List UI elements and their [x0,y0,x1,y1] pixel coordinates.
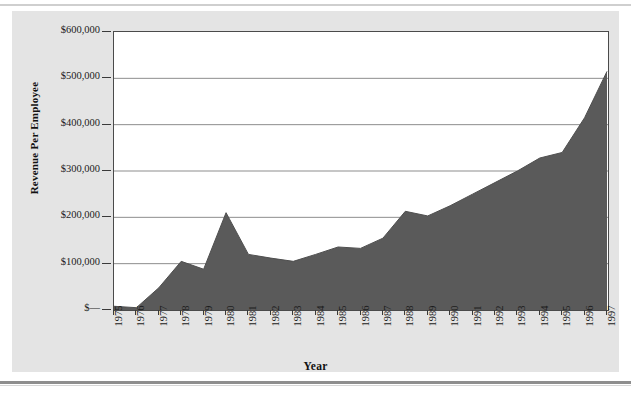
bottom-rule-secondary [0,385,631,386]
x-tick-label: 1991 [472,296,483,336]
x-tick-label: 1985 [337,296,348,336]
x-tick-label: 1987 [382,296,393,336]
x-tick-label: 1976 [135,296,146,336]
x-tick-label: 1983 [292,296,303,336]
x-tick-label: 1994 [539,296,550,336]
chart-figure: Revenue Per Employee $600,000$500,000$40… [0,0,631,396]
x-tick-label: 1996 [584,296,595,336]
x-axis-title: Year [0,360,631,372]
x-tick-label: 1990 [449,296,460,336]
x-tick-label: 1995 [561,296,572,336]
x-axis-tick-labels: 1975197619771978197919801981198219831984… [0,0,631,396]
x-tick-label: 1980 [225,296,236,336]
x-tick-label: 1993 [516,296,527,336]
x-tick-label: 1989 [427,296,438,336]
bottom-rule [0,381,631,384]
x-tick-label: 1977 [158,296,169,336]
x-tick-label: 1997 [606,296,617,336]
x-tick-label: 1984 [315,296,326,336]
x-tick-label: 1982 [270,296,281,336]
x-tick-label: 1975 [113,296,124,336]
x-tick-label: 1978 [180,296,191,336]
x-tick-label: 1986 [360,296,371,336]
x-tick-label: 1992 [494,296,505,336]
x-tick-label: 1981 [247,296,258,336]
x-tick-label: 1988 [404,296,415,336]
x-tick-label: 1979 [203,296,214,336]
